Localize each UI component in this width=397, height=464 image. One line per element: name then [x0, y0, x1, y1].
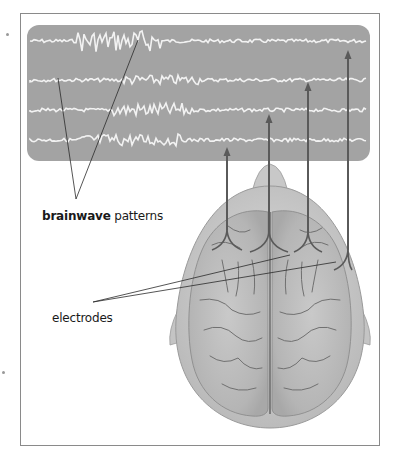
eeg-illustration: [0, 0, 397, 464]
brainwave-label-rest: patterns: [111, 209, 163, 223]
electrodes-label: electrodes: [52, 311, 113, 325]
brainwave-label-bold: brainwave: [42, 209, 111, 223]
brainwave-patterns-label: brainwave patterns: [42, 209, 163, 223]
